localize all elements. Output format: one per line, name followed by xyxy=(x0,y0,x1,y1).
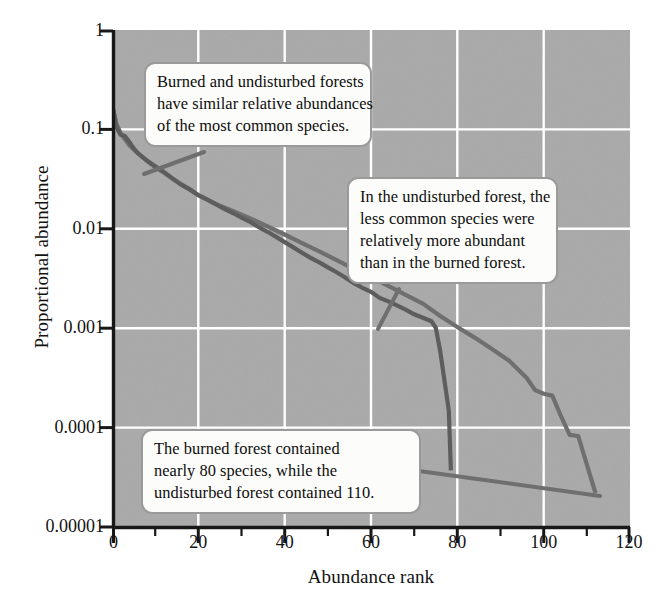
x-tick-label: 40 xyxy=(255,532,315,553)
x-tick-label: 80 xyxy=(427,532,487,553)
callout-line: of the most common species. xyxy=(157,115,360,137)
y-tick-label: 0.0001 xyxy=(55,417,105,438)
callout-line: relatively more abundant xyxy=(360,230,546,252)
callout-line: nearly 80 species, while the xyxy=(154,460,409,482)
x-tick-label: 60 xyxy=(341,532,401,553)
callout-common-species: Burned and undisturbed forests have simi… xyxy=(144,62,372,147)
callout-line: undisturbed forest contained 110. xyxy=(154,482,409,504)
x-tick-label: 20 xyxy=(168,532,228,553)
callout-line: Burned and undisturbed forests xyxy=(157,71,360,93)
callout-less-common-species: In the undisturbed forest, the less comm… xyxy=(347,177,558,284)
y-tick-label: 1 xyxy=(95,20,104,41)
rank-abundance-chart: 1 0.1 0.01 0.001 0.0001 0.00001 0 20 40 … xyxy=(0,0,661,607)
callout-line: In the undisturbed forest, the xyxy=(360,186,546,208)
x-tick-label: 100 xyxy=(514,532,574,553)
callout-species-counts: The burned forest contained nearly 80 sp… xyxy=(141,429,421,514)
y-tick-label: 0.01 xyxy=(73,218,105,239)
x-tick-label: 120 xyxy=(599,532,659,553)
y-axis-title: Proportional abundance xyxy=(31,127,53,387)
x-axis-title: Abundance rank xyxy=(112,566,630,588)
y-tick-label: 0.1 xyxy=(82,118,105,139)
callout-line: than in the burned forest. xyxy=(360,252,546,274)
callout-line: The burned forest contained xyxy=(154,438,409,460)
y-tick-label: 0.001 xyxy=(64,317,105,338)
callout-line: less common species were xyxy=(360,208,546,230)
x-tick-label: 0 xyxy=(84,532,144,553)
callout-line: have similar relative abundances xyxy=(157,93,360,115)
